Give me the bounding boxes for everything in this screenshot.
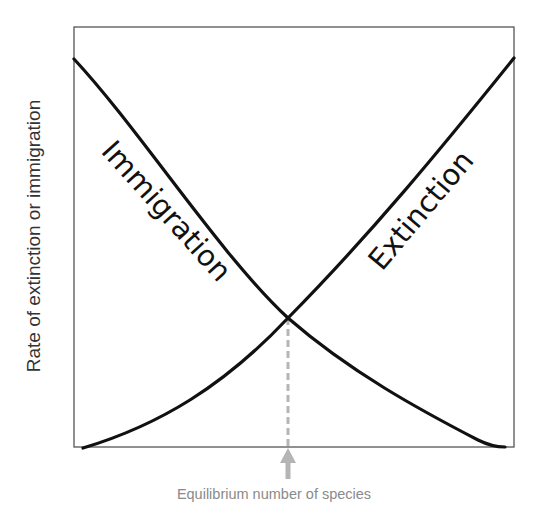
immigration-label: Immigration bbox=[95, 134, 239, 288]
y-axis-label: Rate of extinction or immigration bbox=[23, 100, 44, 372]
plot-frame bbox=[74, 27, 514, 447]
extinction-curve bbox=[83, 58, 514, 448]
equilibrium-label: Equilibrium number of species bbox=[177, 486, 371, 502]
equilibrium-arrow-icon bbox=[280, 448, 296, 479]
island-biogeography-diagram: Immigration Extinction Rate of extinctio… bbox=[0, 0, 535, 520]
extinction-label: Extinction bbox=[361, 144, 480, 277]
